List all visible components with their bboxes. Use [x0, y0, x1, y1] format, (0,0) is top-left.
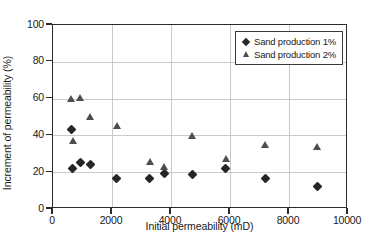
y-axis-tick — [46, 171, 52, 172]
y-axis-tick — [46, 60, 52, 61]
triangle-marker-icon — [240, 49, 252, 61]
y-axis-tick — [46, 97, 52, 98]
chart-legend: Sand production 1%Sand production 2% — [235, 31, 343, 65]
y-axis-tick-label: 60 — [4, 92, 44, 103]
y-axis-tick-label: 100 — [4, 19, 44, 30]
gridline-horizontal — [53, 99, 346, 100]
diamond-marker-icon — [240, 36, 252, 48]
y-axis-tick — [46, 134, 52, 135]
legend-marker-glyph — [243, 51, 249, 57]
legend-item: Sand production 2% — [240, 48, 336, 61]
legend-label: Sand production 2% — [252, 49, 336, 61]
gridline-vertical — [230, 25, 231, 207]
gridline-vertical — [171, 25, 172, 207]
legend-item: Sand production 1% — [240, 35, 336, 48]
y-axis-tick-label: 80 — [4, 55, 44, 66]
y-axis-tick-label: 40 — [4, 129, 44, 140]
gridline-horizontal — [53, 172, 346, 173]
y-axis-tick — [46, 23, 52, 24]
scatter-chart-figure: Increment of permeability (%) 0204060801… — [0, 0, 374, 239]
y-axis-tick-label: 0 — [4, 203, 44, 214]
y-axis-tick-label: 20 — [4, 166, 44, 177]
legend-label: Sand production 1% — [252, 36, 336, 48]
gridline-horizontal — [53, 135, 346, 136]
gridline-vertical — [112, 25, 113, 207]
legend-marker-glyph — [242, 37, 250, 45]
x-axis-title: Initial permeability (mD) — [52, 220, 347, 233]
